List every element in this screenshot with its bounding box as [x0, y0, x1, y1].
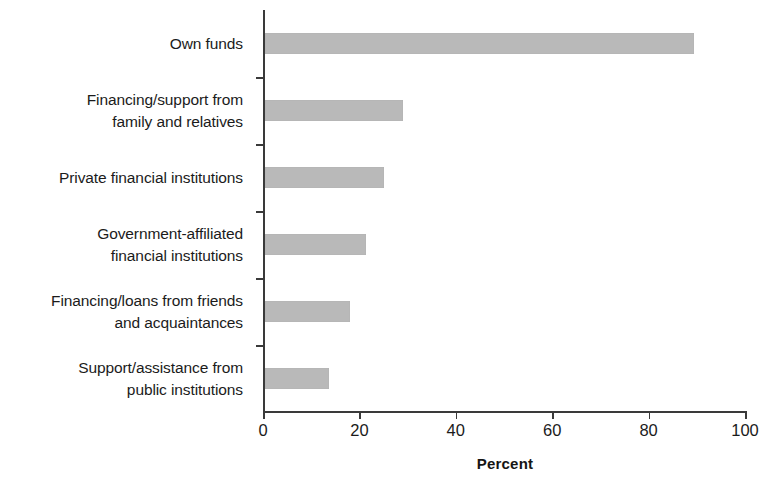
y-axis-category-labels: Own funds Financing/support from family …: [0, 10, 252, 412]
y-axis-category-label-text: Own funds: [170, 33, 243, 55]
bar-friends-acquaintances: [265, 301, 351, 322]
y-axis-category-label-text: Private financial institutions: [59, 167, 243, 189]
x-axis-tick: [552, 411, 554, 419]
y-axis-tick: [256, 278, 263, 280]
y-axis-category-label-text: Government-affiliated financial institut…: [97, 223, 243, 267]
bar-row: [265, 10, 747, 77]
x-axis-tick: [745, 411, 747, 419]
y-axis-tick: [256, 211, 263, 213]
x-axis-tick-label: 100: [731, 421, 759, 440]
x-axis-tick-label: 20: [350, 421, 368, 440]
bar-row: [265, 278, 747, 345]
bar-government-affiliated: [265, 234, 366, 255]
y-axis-category-label-0: Own funds: [0, 10, 252, 77]
bar-chart-figure: Own funds Financing/support from family …: [0, 0, 763, 483]
y-axis-category-label-4: Financing/loans from friends and acquain…: [0, 278, 252, 345]
bar-row: [265, 144, 747, 211]
y-axis-category-label-3: Government-affiliated financial institut…: [0, 211, 252, 278]
y-axis-category-label-text: Financing/loans from friends and acquain…: [51, 290, 243, 334]
x-axis-tick-label: 0: [258, 421, 267, 440]
y-axis-category-label-1: Financing/support from family and relati…: [0, 77, 252, 144]
bar-own-funds: [265, 33, 694, 54]
x-axis-tick-label: 80: [639, 421, 657, 440]
x-axis-tick: [649, 411, 651, 419]
plot-area: [263, 10, 747, 412]
x-axis-title: Percent: [263, 455, 747, 472]
x-axis-tick-marks: [263, 411, 747, 419]
y-axis-category-label-2: Private financial institutions: [0, 144, 252, 211]
x-axis-tick: [359, 411, 361, 419]
y-axis-tick-marks: [256, 10, 263, 412]
y-axis-category-label-text: Financing/support from family and relati…: [87, 89, 243, 133]
bar-row: [265, 345, 747, 412]
bar-family-relatives: [265, 100, 404, 121]
y-axis-category-label-text: Support/assistance from public instituti…: [78, 357, 243, 401]
y-axis-tick: [256, 345, 263, 347]
x-axis-tick: [263, 411, 265, 419]
bar-row: [265, 77, 747, 144]
bar-row: [265, 211, 747, 278]
y-axis-tick: [256, 144, 263, 146]
x-axis-tick-label: 40: [447, 421, 465, 440]
bar-private-financial-institutions: [265, 167, 384, 188]
y-axis-tick: [256, 77, 263, 79]
bars-group: [265, 10, 747, 412]
x-axis-tick-labels: 020406080100: [263, 421, 747, 445]
bar-public-institutions: [265, 368, 329, 389]
y-axis-category-label-5: Support/assistance from public instituti…: [0, 345, 252, 412]
x-axis-tick: [456, 411, 458, 419]
x-axis-tick-label: 60: [543, 421, 561, 440]
